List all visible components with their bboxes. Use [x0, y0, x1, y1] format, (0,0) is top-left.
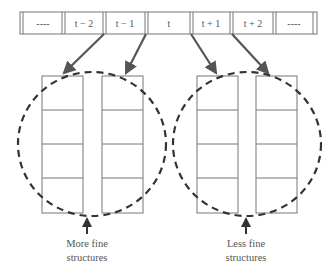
- arrow-t-minus-1: [126, 34, 146, 73]
- mapping-arrows: [64, 34, 268, 73]
- structure-group-right: [197, 76, 297, 213]
- structure-group-left: [42, 76, 143, 213]
- sequence-cell-t: t: [168, 18, 171, 29]
- arrow-t-plus-1: [191, 34, 216, 73]
- dashed-circle-left: [18, 72, 166, 216]
- diagram-canvas: ---- t − 2 t − 1 t t + 1 t + 2 ----: [0, 0, 336, 276]
- sequence-cell-t-minus-1: t − 1: [116, 18, 134, 29]
- sequence-cell-t-plus-2: t + 2: [244, 18, 262, 29]
- caption-left-line2: structures: [67, 252, 108, 263]
- arrow-t-plus-2: [232, 34, 268, 73]
- caption-right-line2: structures: [226, 252, 267, 263]
- sequence-cell-t-plus-1: t + 1: [202, 18, 220, 29]
- caption-left-line1: More fine: [66, 238, 108, 249]
- arrow-t-minus-2: [64, 34, 104, 73]
- sequence-bar: ---- t − 2 t − 1 t t + 1 t + 2 ----: [20, 12, 317, 34]
- sequence-cell-t-minus-2: t − 2: [75, 18, 93, 29]
- dashed-circle-right: [173, 72, 321, 216]
- sequence-cell-ellipsis-left: ----: [36, 18, 49, 29]
- caption-right-line1: Less fine: [227, 238, 266, 249]
- sequence-cell-ellipsis-right: ----: [287, 18, 300, 29]
